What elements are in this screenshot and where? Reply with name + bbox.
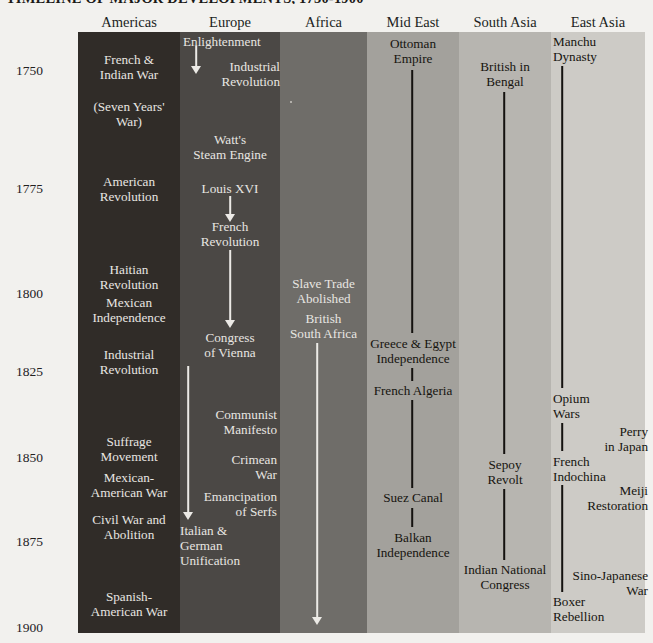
event-americas-5: Industrial Revolution bbox=[78, 347, 180, 377]
event-europe-9: Italian & German Unification bbox=[180, 523, 280, 568]
event-europe-0: Enlightenment bbox=[183, 34, 283, 49]
event-mideast-2: French Algeria bbox=[362, 383, 464, 398]
column-header-mideast: Mid East bbox=[367, 14, 459, 31]
event-africa-1: British South Africa bbox=[280, 311, 367, 341]
event-mideast-1: Greece & Egypt Independence bbox=[362, 336, 464, 366]
event-americas-7: Mexican- American War bbox=[78, 470, 180, 500]
event-southasia-2: Indian National Congress bbox=[450, 562, 560, 592]
event-americas-2: American Revolution bbox=[78, 174, 180, 204]
event-americas-4: Mexican Independence bbox=[78, 295, 180, 325]
event-eastasia-0: Manchu Dynasty bbox=[553, 34, 648, 64]
event-americas-8: Civil War and Abolition bbox=[78, 512, 180, 542]
year-label-1800: 1800 bbox=[16, 286, 70, 302]
event-eastasia-6: Boxer Rebellion bbox=[553, 594, 648, 624]
event-europe-4: French Revolution bbox=[180, 219, 280, 249]
event-europe-6: Communist Manifesto bbox=[183, 407, 277, 437]
arrowhead-icon bbox=[312, 617, 322, 625]
paper-speck bbox=[290, 101, 292, 103]
event-americas-9: Spanish- American War bbox=[78, 589, 180, 619]
event-eastasia-3: French Indochina bbox=[553, 454, 648, 484]
event-europe-8: Emancipation of Serfs bbox=[183, 489, 277, 519]
event-europe-5: Congress of Vienna bbox=[180, 330, 280, 360]
column-band-southasia bbox=[459, 32, 551, 633]
event-europe-2: Watt's Steam Engine bbox=[180, 132, 280, 162]
event-americas-1: (Seven Years' War) bbox=[78, 99, 180, 129]
event-mideast-3: Suez Canal bbox=[367, 490, 459, 505]
arrowhead-icon bbox=[225, 214, 235, 222]
event-europe-7: Crimean War bbox=[183, 452, 277, 482]
column-header-americas: Americas bbox=[78, 14, 180, 31]
timeline-chart: Americas Europe Africa Mid East South As… bbox=[0, 0, 653, 643]
column-header-southasia: South Asia bbox=[459, 14, 551, 31]
event-americas-6: Suffrage Movement bbox=[78, 434, 180, 464]
event-southasia-1: Sepoy Revolt bbox=[459, 457, 551, 487]
event-mideast-0: Ottoman Empire bbox=[367, 36, 459, 66]
event-americas-3: Haitian Revolution bbox=[78, 262, 180, 292]
event-mideast-4: Balkan Independence bbox=[367, 530, 459, 560]
year-label-1750: 1750 bbox=[16, 63, 70, 79]
year-label-1850: 1850 bbox=[16, 450, 70, 466]
column-header-eastasia: East Asia bbox=[551, 14, 645, 31]
event-americas-0: French & Indian War bbox=[78, 52, 180, 82]
event-europe-3: Louis XVI bbox=[180, 181, 280, 196]
arrowhead-icon bbox=[183, 512, 193, 520]
year-label-1875: 1875 bbox=[16, 534, 70, 550]
column-band-eastasia bbox=[551, 32, 645, 633]
column-header-europe: Europe bbox=[180, 14, 280, 31]
event-eastasia-4: Meiji Restoration bbox=[572, 483, 648, 513]
year-label-1900: 1900 bbox=[16, 620, 70, 636]
year-label-1825: 1825 bbox=[16, 364, 70, 380]
arrowhead-icon bbox=[191, 66, 201, 74]
arrowhead-icon bbox=[225, 320, 235, 328]
event-europe-1: Industrial Revolution bbox=[186, 59, 280, 89]
column-header-africa: Africa bbox=[280, 14, 367, 31]
event-eastasia-2: Perry in Japan bbox=[578, 424, 648, 454]
year-label-1775: 1775 bbox=[16, 181, 70, 197]
event-africa-0: Slave Trade Abolished bbox=[280, 276, 367, 306]
event-southasia-0: British in Bengal bbox=[459, 59, 551, 89]
event-eastasia-1: Opium Wars bbox=[553, 391, 648, 421]
